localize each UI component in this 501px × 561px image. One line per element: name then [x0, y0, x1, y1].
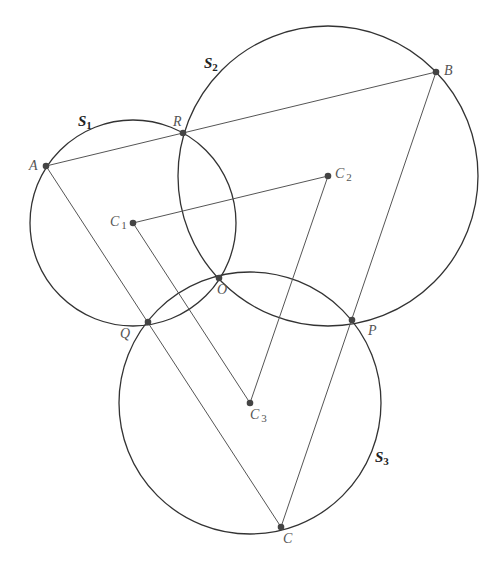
point-label-c3: C3 [250, 407, 267, 424]
point-label-o: O [217, 282, 227, 297]
labels-layer: S1S2S3ARBC1C2C3OQPC [28, 55, 453, 546]
point-a [43, 163, 50, 170]
geometry-diagram: S1S2S3ARBC1C2C3OQPC [0, 0, 501, 561]
point-p [349, 317, 356, 324]
point-label-c: C [283, 531, 293, 546]
point-r [180, 130, 187, 137]
circle-label-s3: S3 [375, 449, 389, 467]
point-label-p: P [367, 323, 377, 338]
circles-layer [30, 26, 478, 534]
point-label-q: Q [120, 326, 130, 341]
point-o [216, 275, 223, 282]
point-b [433, 69, 440, 76]
point-label-b: B [444, 63, 453, 78]
circle-label-s1: S1 [78, 113, 92, 131]
point-c2 [325, 173, 332, 180]
point-label-c2: C2 [335, 166, 352, 183]
segment-a-b [46, 72, 436, 166]
point-c3 [247, 400, 254, 407]
point-label-r: R [172, 114, 182, 129]
point-q [145, 319, 152, 326]
point-c [278, 524, 285, 531]
point-label-a: A [28, 158, 38, 173]
segment-a-c [46, 166, 281, 527]
point-c1 [130, 220, 137, 227]
segment-c1-c2 [133, 176, 328, 223]
point-label-c1: C1 [110, 214, 127, 231]
circle-label-s2: S2 [204, 55, 218, 73]
